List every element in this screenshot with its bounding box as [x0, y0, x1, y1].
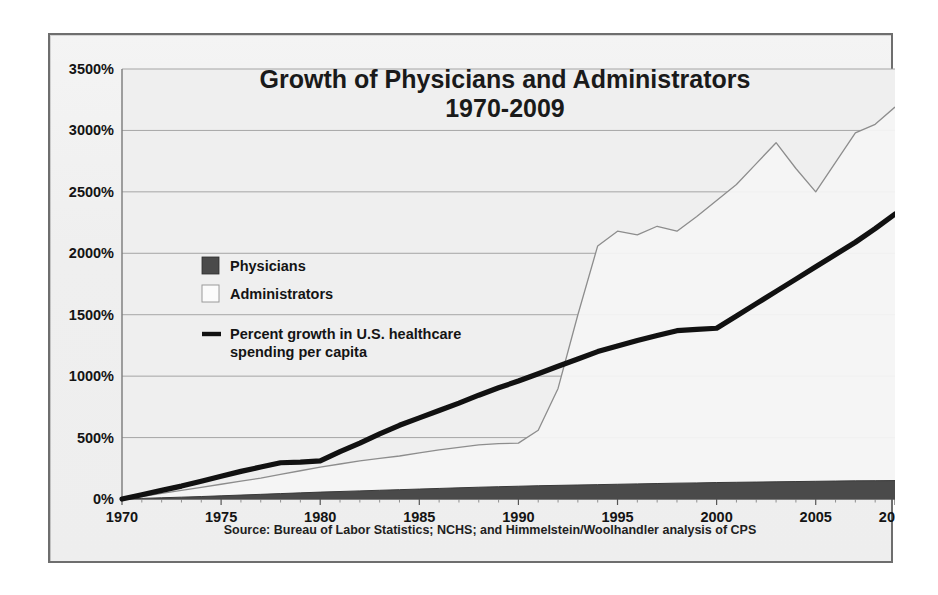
y-tick-label: 2500% — [69, 184, 114, 200]
legend-label-physicians: Physicians — [230, 258, 306, 274]
chart-subtitle: 1970-2009 — [445, 94, 565, 122]
legend-label-spending-line1: Percent growth in U.S. healthcare — [230, 326, 461, 342]
screenshot-page: 0%500%1000%1500%2000%2500%3000%3500% 197… — [0, 0, 938, 595]
chart-title: Growth of Physicians and Administrators — [260, 65, 751, 93]
legend-swatch-physicians — [202, 257, 219, 274]
x-axis-tickmarks — [122, 499, 895, 505]
source-note: Source: Bureau of Labor Statistics; NCHS… — [224, 523, 757, 537]
x-tick-label: 2005 — [800, 509, 832, 525]
y-tick-label: 1000% — [69, 368, 114, 384]
y-tick-label: 500% — [77, 430, 114, 446]
legend-swatch-administrators — [202, 285, 219, 302]
y-axis-tick-labels: 0%500%1000%1500%2000%2500%3000%3500% — [69, 61, 114, 507]
growth-chart: 0%500%1000%1500%2000%2500%3000%3500% 197… — [50, 35, 895, 565]
y-tick-label: 2000% — [69, 245, 114, 261]
y-tick-label: 1500% — [69, 307, 114, 323]
x-tick-label: 1970 — [106, 509, 138, 525]
legend-label-spending-line2: spending per capita — [230, 344, 368, 360]
y-tick-label: 3500% — [69, 61, 114, 77]
y-tick-label: 3000% — [69, 122, 114, 138]
chart-figure-frame: 0%500%1000%1500%2000%2500%3000%3500% 197… — [48, 33, 893, 563]
x-tick-label: 2009 — [879, 509, 895, 525]
legend-label-administrators: Administrators — [230, 286, 333, 302]
y-tick-label: 0% — [93, 491, 114, 507]
